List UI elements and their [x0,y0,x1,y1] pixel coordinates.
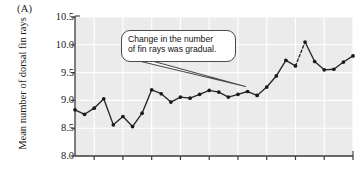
data-point-3 [102,97,106,101]
data-point-11 [179,95,183,99]
annotation-line-1: Change in the number [128,34,229,44]
annotation-callout-text: Change in the number of fin rays was gra… [128,34,229,55]
data-point-27 [332,67,336,71]
data-point-15 [217,90,221,94]
data-point-4 [111,123,115,127]
data-point-28 [342,60,346,64]
data-point-13 [198,92,202,96]
data-point-9 [159,92,163,96]
chart-plot-area [0,0,361,180]
data-point-1 [83,112,87,116]
data-point-26 [322,68,326,72]
data-point-14 [207,89,211,93]
data-point-20 [265,85,269,89]
data-point-2 [92,106,96,110]
data-point-29 [351,54,355,58]
data-point-23 [294,64,298,68]
data-point-24 [303,40,307,44]
annotation-callout: Change in the number of fin rays was gra… [121,30,236,62]
data-point-0 [73,108,77,112]
data-point-18 [246,90,250,94]
data-point-6 [131,125,135,129]
data-point-17 [236,92,240,96]
figure-panel-a: (A) Mean number of dorsal fin rays 8.08.… [0,0,361,180]
data-point-10 [169,100,173,104]
data-point-12 [188,96,192,100]
data-point-19 [255,94,259,98]
data-point-8 [150,88,154,92]
data-point-16 [227,95,231,99]
data-point-22 [284,59,288,63]
data-point-25 [313,60,317,64]
annotation-line-2: of fin rays was gradual. [128,44,229,54]
data-point-21 [274,74,278,78]
data-point-5 [121,115,125,119]
data-point-7 [140,111,144,115]
